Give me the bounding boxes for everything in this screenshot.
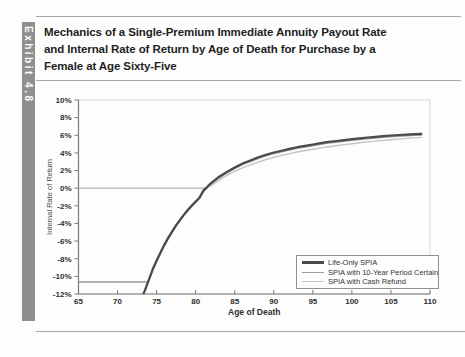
- exhibit-page: Exhibit 4.8 Mechanics of a Single-Premiu…: [0, 0, 465, 357]
- y-tick-label: -4%: [57, 219, 71, 228]
- x-tick-label: 70: [113, 297, 122, 306]
- x-tick-label: 100: [345, 297, 359, 306]
- bottom-rule: [36, 331, 465, 332]
- x-tick-label: 95: [308, 297, 317, 306]
- y-axis-title: Internal Rate of Return: [45, 159, 54, 235]
- legend-line-swatch: [302, 272, 324, 273]
- legend-line-swatch: [302, 261, 324, 264]
- y-tick-label: 0%: [60, 184, 72, 193]
- x-tick-label: 105: [384, 297, 398, 306]
- legend-item: SPIA with 10-Year Period Certain: [297, 268, 438, 277]
- y-tick-label: 8%: [60, 113, 72, 122]
- legend-label: SPIA with Cash Refund: [328, 277, 406, 286]
- x-tick-label: 75: [152, 297, 161, 306]
- y-tick-label: -6%: [57, 237, 71, 246]
- legend-item: SPIA with Cash Refund: [297, 277, 438, 286]
- y-tick-label: 6%: [60, 131, 72, 140]
- y-tick-label: -10%: [53, 272, 72, 281]
- series-line-spia-with-cash-refund: [79, 137, 423, 188]
- y-tick-label: 4%: [60, 149, 72, 158]
- x-tick-label: 110: [424, 297, 437, 306]
- y-tick-label: -2%: [57, 202, 71, 211]
- x-axis-title: Age of Death: [228, 307, 280, 317]
- y-tick-label: -8%: [57, 255, 71, 264]
- x-tick-label: 80: [191, 297, 200, 306]
- legend-line-swatch: [302, 281, 324, 282]
- legend-label: SPIA with 10-Year Period Certain: [328, 268, 438, 277]
- y-tick-label: 2%: [60, 166, 72, 175]
- x-tick-label: 85: [230, 297, 239, 306]
- legend-item: Life-Only SPIA: [297, 258, 438, 267]
- legend-label: Life-Only SPIA: [328, 258, 377, 267]
- y-tick-label: 10%: [55, 96, 71, 105]
- irr-chart: 10%8%6%4%2%0%-2%-4%-6%-8%-10%-12%6570758…: [0, 0, 465, 357]
- chart-legend: Life-Only SPIASPIA with 10-Year Period C…: [296, 255, 439, 289]
- y-tick-label: -12%: [53, 290, 72, 299]
- chart-canvas: 10%8%6%4%2%0%-2%-4%-6%-8%-10%-12%6570758…: [0, 0, 465, 357]
- x-tick-label: 65: [74, 297, 83, 306]
- x-tick-label: 90: [269, 297, 278, 306]
